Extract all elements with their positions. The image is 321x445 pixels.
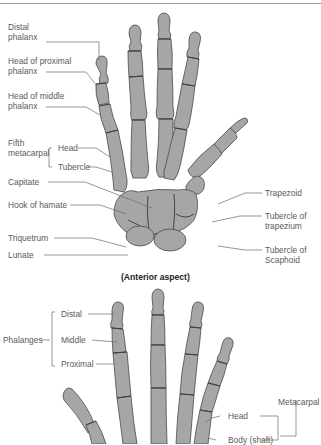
label-tubercle-of-scaphoid: Tubercle of Scaphoid xyxy=(265,245,307,265)
label-text: trapezium xyxy=(265,221,307,231)
label-head: Head xyxy=(228,411,248,421)
label-distal: Distal xyxy=(61,309,82,319)
label-text: Scaphoid xyxy=(265,255,307,265)
label-head-of-middle-phalanx: Head of middle phalanx xyxy=(8,91,64,111)
label-text: Fifth xyxy=(8,138,49,148)
label-text: phalanx xyxy=(8,66,71,76)
label-fifth-metacarpal-head: Head xyxy=(58,143,78,153)
label-text: Tubercle of xyxy=(265,245,307,255)
label-text: Head of middle xyxy=(8,91,64,101)
label-text: phalanx xyxy=(8,101,64,111)
label-text: phalanx xyxy=(8,32,37,42)
label-head-of-proximal-phalanx: Head of proximal phalanx xyxy=(8,56,71,76)
label-text: Head of proximal xyxy=(8,56,71,66)
label-body-shaft: Body (shaft) xyxy=(228,435,273,445)
label-middle: Middle xyxy=(61,335,86,345)
label-triquetrum: Triquetrum xyxy=(8,233,48,243)
label-text: metacarpal xyxy=(8,148,49,158)
label-fifth-metacarpal: Fifth metacarpal xyxy=(8,138,49,158)
caption-anterior-aspect: (Anterior aspect) xyxy=(121,272,190,282)
anterior-hand xyxy=(96,13,248,251)
label-lunate: Lunate xyxy=(8,250,34,260)
label-phalanges: Phalanges xyxy=(3,335,43,345)
label-text: Distal xyxy=(8,22,37,32)
label-hook-of-hamate: Hook of hamate xyxy=(8,200,67,210)
label-fifth-metacarpal-tubercle: Tubercle xyxy=(58,162,90,172)
label-capitate: Capitate xyxy=(8,177,39,187)
label-distal-phalanx: Distal phalanx xyxy=(8,22,37,42)
label-metacarpal: Metacarpal xyxy=(278,397,319,407)
label-trapezoid: Trapezoid xyxy=(265,188,302,198)
label-tubercle-of-trapezium: Tubercle of trapezium xyxy=(265,211,307,231)
label-proximal: Proximal xyxy=(61,359,94,369)
label-text: Tubercle of xyxy=(265,211,307,221)
